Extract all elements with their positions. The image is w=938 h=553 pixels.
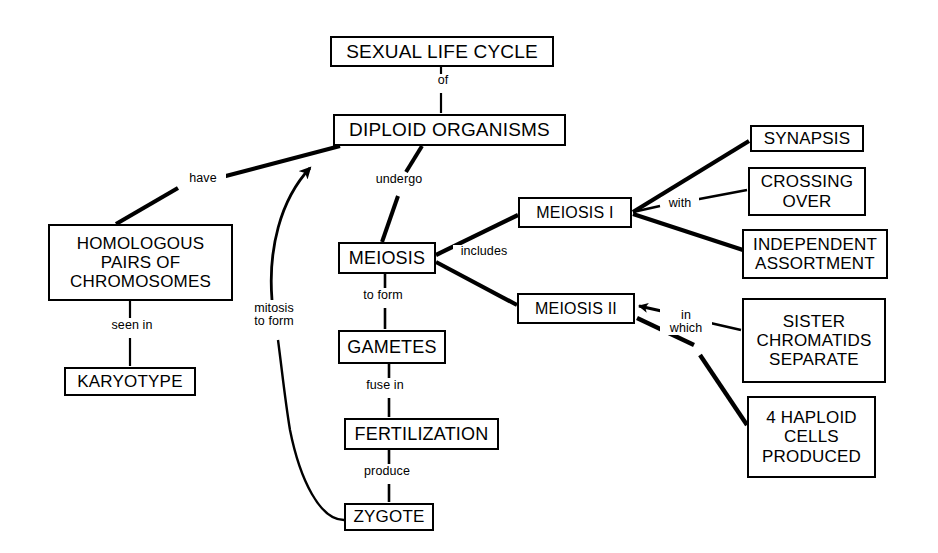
node-diploid-organisms[interactable]: DIPLOID ORGANISMS bbox=[333, 114, 566, 146]
node-sexual-life-cycle[interactable]: SEXUAL LIFE CYCLE bbox=[330, 36, 554, 67]
edge-label-mitosis-to-form: mitosis to form bbox=[241, 302, 307, 328]
edge-label-seen-in: seen in bbox=[104, 319, 160, 332]
node-homologous-pairs-of-chromosomes[interactable]: HOMOLOGOUS PAIRS OF CHROMOSOMES bbox=[48, 224, 233, 301]
node-crossing-over[interactable]: CROSSING OVER bbox=[748, 167, 866, 216]
node-independent-assortment[interactable]: INDEPENDENT ASSORTMENT bbox=[742, 229, 888, 279]
edge-homologous-pairs-to-diploid-organisms bbox=[116, 146, 340, 224]
edge-label-of: of bbox=[426, 74, 460, 87]
edge-label-with: with bbox=[661, 197, 699, 210]
node-meiosis-i[interactable]: MEIOSIS I bbox=[518, 197, 632, 228]
edge-label-produce: produce bbox=[356, 465, 418, 478]
edge-label-fuse-in: fuse in bbox=[358, 379, 412, 392]
node-sister-chromatids-separate[interactable]: SISTER CHROMATIDS SEPARATE bbox=[742, 298, 886, 383]
edge-label-have: have bbox=[180, 172, 226, 185]
node-fertilization[interactable]: FERTILIZATION bbox=[344, 418, 499, 450]
node-synapsis[interactable]: SYNAPSIS bbox=[750, 125, 864, 152]
node-4-haploid-cells-produced[interactable]: 4 HAPLOID CELLS PRODUCED bbox=[747, 396, 876, 478]
node-karyotype[interactable]: KARYOTYPE bbox=[64, 367, 196, 396]
edge-label-includes: includes bbox=[453, 245, 515, 258]
node-meiosis-ii[interactable]: MEIOSIS II bbox=[517, 293, 635, 324]
concept-map-canvas: SEXUAL LIFE CYCLE DIPLOID ORGANISMS HOMO… bbox=[0, 0, 938, 553]
edge-label-to-form: to form bbox=[355, 289, 411, 302]
node-zygote[interactable]: ZYGOTE bbox=[344, 503, 434, 531]
edge-meiosis-to-meiosis-ii bbox=[436, 262, 517, 305]
edge-zygote-to-diploid-organisms bbox=[271, 168, 344, 520]
edge-label-in-which: in which bbox=[660, 309, 712, 335]
edge-label-undergo: undergo bbox=[367, 173, 431, 186]
edge-diploid-organisms-to-meiosis bbox=[382, 146, 422, 242]
node-meiosis[interactable]: MEIOSIS bbox=[338, 242, 436, 274]
node-gametes[interactable]: GAMETES bbox=[338, 330, 446, 364]
edge-meiosis-i-to-independent-assortment bbox=[633, 214, 743, 250]
